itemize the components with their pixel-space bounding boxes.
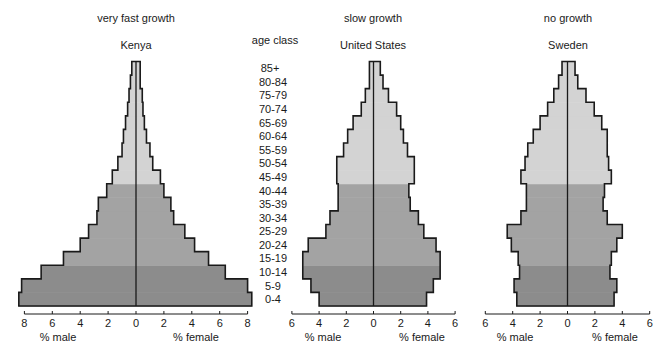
- age-bar: [337, 170, 415, 184]
- age-bar: [533, 129, 607, 143]
- x-tick-label: 4: [316, 317, 322, 329]
- age-bar: [308, 238, 436, 252]
- age-bar: [130, 75, 140, 89]
- x-tick-label: 2: [398, 317, 404, 329]
- x-tick-label: 6: [482, 317, 488, 329]
- age-bar: [540, 116, 602, 130]
- age-bar: [128, 102, 143, 116]
- age-bar: [562, 62, 575, 76]
- age-bar: [559, 75, 578, 89]
- x-tick-label: 8: [245, 317, 251, 329]
- age-bar: [554, 89, 586, 103]
- x-tick-label: 4: [189, 317, 195, 329]
- age-bar: [107, 184, 164, 198]
- age-bar: [517, 292, 614, 306]
- age-bar: [369, 75, 383, 89]
- kenya-x-axis: 864202468: [21, 311, 250, 329]
- age-bar: [330, 211, 418, 225]
- population-pyramids-figure: very fast growth Kenya slow growth Unite…: [0, 0, 668, 356]
- age-bar: [521, 211, 607, 225]
- x-tick-label: 6: [217, 317, 223, 329]
- age-bar: [19, 292, 252, 306]
- x-tick-label: 4: [619, 317, 625, 329]
- age-bar: [521, 170, 611, 184]
- age-bar: [526, 197, 603, 211]
- age-bar: [361, 102, 396, 116]
- age-bar: [80, 238, 194, 252]
- x-tick-label: 6: [289, 317, 295, 329]
- x-tick-label: 2: [592, 317, 598, 329]
- x-tick-label: 2: [161, 317, 167, 329]
- age-bar: [526, 184, 604, 198]
- us-pyramid: 6420246: [289, 62, 458, 330]
- x-tick-label: 0: [564, 317, 570, 329]
- us-x-axis: 6420246: [289, 311, 458, 329]
- pyramid-plot-area: 86420246864202466420246: [0, 0, 668, 356]
- age-bar: [344, 143, 408, 157]
- x-tick-label: 6: [452, 317, 458, 329]
- age-bar: [98, 197, 171, 211]
- age-bar: [520, 265, 610, 279]
- age-bar: [518, 252, 611, 266]
- age-bar: [89, 225, 185, 239]
- age-bar: [303, 265, 440, 279]
- age-bar: [118, 157, 153, 171]
- x-tick-label: 0: [370, 317, 376, 329]
- x-tick-label: 4: [77, 317, 83, 329]
- x-tick-label: 6: [647, 317, 653, 329]
- age-bar: [22, 279, 248, 293]
- age-bar: [338, 197, 410, 211]
- x-tick-label: 0: [133, 317, 139, 329]
- x-tick-label: 8: [21, 317, 27, 329]
- age-bar: [548, 102, 595, 116]
- age-bar: [348, 129, 404, 143]
- age-bar: [511, 238, 616, 252]
- age-bar: [97, 211, 174, 225]
- age-bar: [41, 265, 225, 279]
- sweden-x-axis: 6420246: [482, 311, 653, 329]
- age-bar: [369, 62, 380, 76]
- age-bar: [303, 252, 440, 266]
- age-bar: [353, 116, 401, 130]
- age-bar: [123, 129, 146, 143]
- age-bar: [514, 279, 617, 293]
- x-tick-label: 2: [343, 317, 349, 329]
- x-tick-label: 6: [49, 317, 55, 329]
- x-tick-label: 4: [425, 317, 431, 329]
- sweden-pyramid: 6420246: [482, 62, 653, 330]
- age-bar: [365, 89, 388, 103]
- x-tick-label: 4: [510, 317, 516, 329]
- kenya-pyramid: 864202468: [19, 62, 252, 330]
- age-bar: [507, 225, 622, 239]
- x-tick-label: 2: [537, 317, 543, 329]
- age-bar: [319, 292, 426, 306]
- age-bar: [311, 279, 433, 293]
- age-bar: [337, 157, 415, 171]
- x-tick-label: 2: [105, 317, 111, 329]
- age-bar: [326, 225, 424, 239]
- age-bar: [525, 157, 609, 171]
- age-bar: [126, 116, 145, 130]
